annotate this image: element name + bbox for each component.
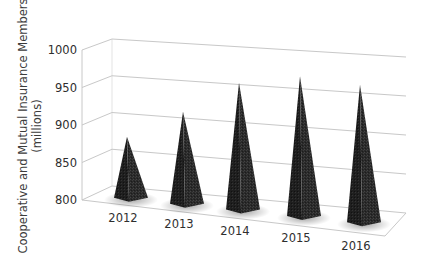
- y-tick-label: 1000: [48, 43, 77, 57]
- y-axis-title-units: (millions): [30, 99, 44, 152]
- y-tick-label: 850: [55, 156, 77, 170]
- x-tick-label: 2013: [164, 217, 193, 231]
- x-tick-label: 2016: [341, 239, 370, 253]
- pyramid-bars: [104, 76, 391, 232]
- y-tick-label: 800: [55, 193, 77, 207]
- pyramid-bar-2015: [277, 76, 331, 226]
- x-tick-label: 2012: [108, 211, 137, 225]
- pyramid-bar-2013: [160, 112, 214, 214]
- x-tick-label: 2014: [220, 224, 249, 238]
- pyramid-chart: Cooperative and Mutual Insurance Members…: [0, 0, 428, 268]
- y-axis-ticks: 8008509009501000: [48, 43, 77, 207]
- x-tick-label: 2015: [281, 231, 310, 245]
- y-tick-label: 950: [55, 81, 77, 95]
- gridline: [82, 76, 406, 96]
- pyramid-bar-2014: [216, 83, 270, 220]
- pyramid-bar-2016: [337, 85, 391, 233]
- y-tick-label: 900: [55, 118, 77, 132]
- gridline: [82, 39, 406, 57]
- y-axis-title: Cooperative and Mutual Insurance Members: [16, 0, 30, 254]
